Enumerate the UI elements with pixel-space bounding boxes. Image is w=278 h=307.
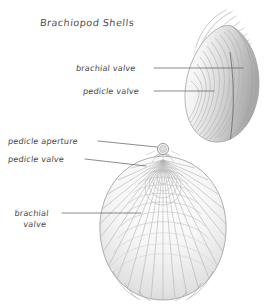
leader-pedicle-aperture bbox=[98, 141, 157, 147]
label-brachial-valve-lower-line1: brachial bbox=[14, 208, 49, 218]
label-pedicle-valve-upper: pedicle valve bbox=[82, 86, 139, 97]
label-brachial-valve-upper: brachial valve bbox=[75, 63, 136, 74]
label-brachial-valve-lower: brachial valve bbox=[13, 208, 49, 229]
dorsal-view-shell bbox=[96, 143, 230, 301]
figure-title: Brachiopod Shells bbox=[39, 17, 134, 28]
label-pedicle-valve-lower: pedicle valve bbox=[7, 154, 64, 165]
label-brachial-valve-lower-line2: valve bbox=[23, 219, 48, 230]
label-pedicle-aperture: pedicle aperture bbox=[7, 136, 78, 147]
lateral-view-shell bbox=[185, 10, 264, 144]
